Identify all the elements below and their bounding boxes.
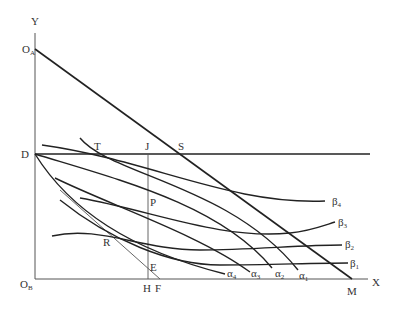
beta-curve-1 — [60, 200, 348, 265]
beta-3-label: β3 — [338, 216, 348, 230]
point-j-label: J — [145, 140, 150, 152]
alpha-3-label: α3 — [251, 267, 261, 281]
point-h-label: H — [143, 282, 151, 294]
point-p-label: P — [150, 196, 156, 208]
x-axis-label: X — [372, 276, 380, 288]
alpha-1-label: α1 — [299, 269, 309, 283]
point-t-label: T — [94, 140, 101, 152]
line-oa-m — [35, 49, 352, 279]
point-m-label: M — [347, 285, 357, 297]
point-e-label: E — [150, 261, 157, 273]
y-axis-label: Y — [31, 15, 39, 27]
point-d-label: D — [21, 148, 29, 160]
diagram-canvas: Y X OA OB D T J S P R E H F M α4 α3 α2 α… — [0, 0, 417, 313]
origin-a-label: OA — [22, 43, 35, 57]
alpha-curve-4 — [35, 154, 225, 274]
beta-2-label: β2 — [345, 238, 355, 252]
point-s-label: S — [178, 140, 184, 152]
beta-4-label: β4 — [332, 195, 342, 209]
alpha-2-label: α2 — [275, 267, 285, 281]
line-r-f — [60, 190, 160, 279]
beta-curve-3 — [80, 198, 335, 234]
origin-b-label: OB — [20, 278, 33, 292]
beta-1-label: β1 — [350, 257, 360, 271]
point-r-label: R — [103, 236, 111, 248]
alpha-4-label: α4 — [227, 267, 237, 281]
point-f-label: F — [155, 282, 161, 294]
